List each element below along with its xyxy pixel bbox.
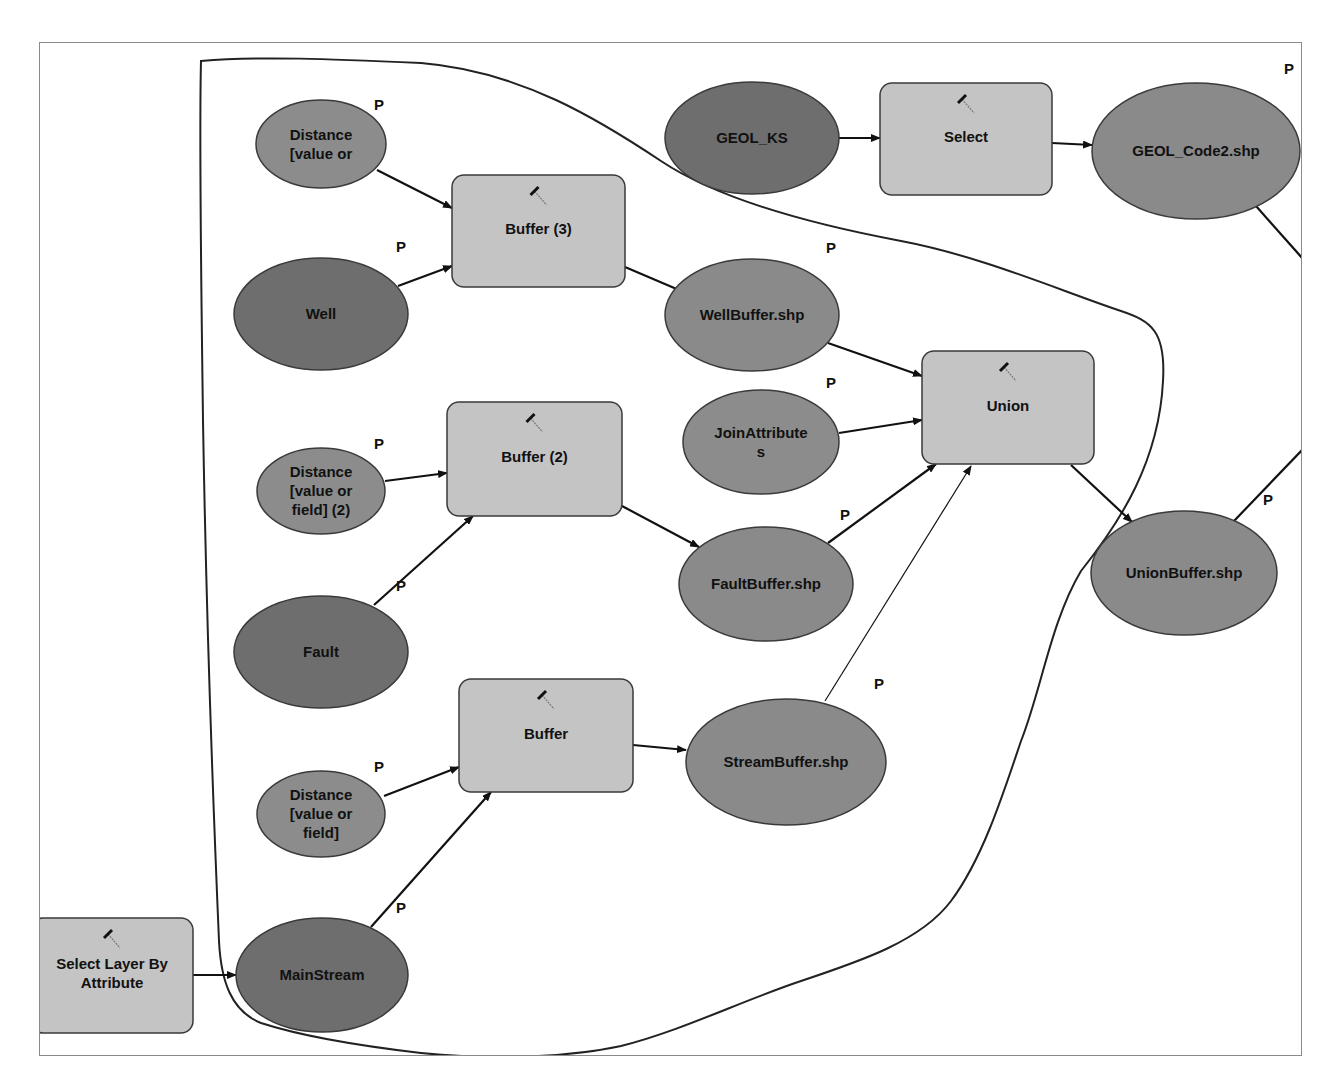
- node-distance2[interactable]: Distance[value orfield] (2)P: [257, 435, 385, 534]
- node-label: StreamBuffer.shp: [723, 753, 848, 770]
- connector-select-to-geol_code2[interactable]: [1052, 143, 1092, 145]
- model-parameter-marker: P: [396, 899, 406, 916]
- node-geol_ks[interactable]: GEOL_KS: [665, 82, 839, 194]
- node-label: s: [757, 443, 765, 460]
- node-joinattributes[interactable]: JoinAttributesP: [683, 374, 839, 494]
- model-parameter-marker: P: [826, 239, 836, 256]
- model-parameter-marker: P: [1284, 60, 1294, 77]
- node-buffer1[interactable]: Buffer: [459, 679, 633, 792]
- node-label: WellBuffer.shp: [700, 306, 805, 323]
- node-well[interactable]: WellP: [234, 238, 408, 370]
- node-mainstream[interactable]: MainStreamP: [236, 899, 408, 1032]
- node-layer: Distance[value orPWellPBuffer (3)Distanc…: [40, 60, 1300, 1033]
- node-label: GEOL_Code2.shp: [1132, 142, 1260, 159]
- model-parameter-marker: P: [826, 374, 836, 391]
- node-label: Buffer (3): [505, 220, 572, 237]
- node-unionbuffer[interactable]: UnionBuffer.shpP: [1091, 491, 1277, 635]
- connector-wellbuffer-to-union[interactable]: [828, 343, 922, 376]
- node-distance1[interactable]: Distance[value orfield]P: [257, 758, 385, 857]
- node-label: Distance: [290, 786, 353, 803]
- node-label: Select: [944, 128, 988, 145]
- node-label: Attribute: [81, 974, 144, 991]
- node-label: [value or: [290, 482, 353, 499]
- node-label: [value or: [290, 805, 353, 822]
- model-parameter-marker: P: [1263, 491, 1273, 508]
- node-label: Union: [987, 397, 1030, 414]
- connector-distance2-to-buffer2[interactable]: [385, 473, 447, 481]
- connector-joinattributes-to-union[interactable]: [839, 420, 922, 433]
- node-distance3[interactable]: Distance[value orP: [256, 96, 386, 188]
- annotation-outline: [200, 58, 1163, 1056]
- node-union[interactable]: Union: [922, 351, 1094, 464]
- model-canvas[interactable]: Distance[value orPWellPBuffer (3)Distanc…: [39, 42, 1302, 1056]
- node-buffer3[interactable]: Buffer (3): [452, 175, 625, 287]
- connector-mainstream-to-buffer1[interactable]: [371, 792, 491, 927]
- node-label: Buffer: [524, 725, 568, 742]
- model-parameter-marker: P: [396, 577, 406, 594]
- node-label: Distance: [290, 463, 353, 480]
- node-label: Fault: [303, 643, 339, 660]
- connector-buffer1-to-streambuffer[interactable]: [633, 745, 686, 750]
- model-parameter-marker: P: [374, 96, 384, 113]
- node-label: Buffer (2): [501, 448, 568, 465]
- connector-well-to-buffer3[interactable]: [398, 266, 452, 286]
- node-label: GEOL_KS: [716, 129, 788, 146]
- connector-fault-to-buffer2[interactable]: [374, 516, 473, 605]
- node-buffer2[interactable]: Buffer (2): [447, 402, 622, 516]
- annotation-outline-layer: [200, 58, 1163, 1056]
- node-label: FaultBuffer.shp: [711, 575, 821, 592]
- connector-unionbuffer-to-offscreen[interactable]: [1234, 449, 1302, 521]
- model-parameter-marker: P: [374, 758, 384, 775]
- node-label: field]: [303, 824, 339, 841]
- node-label: Distance: [290, 126, 353, 143]
- node-faultbuffer[interactable]: FaultBuffer.shpP: [679, 506, 853, 641]
- model-parameter-marker: P: [396, 238, 406, 255]
- node-label: UnionBuffer.shp: [1126, 564, 1243, 581]
- node-label: Select Layer By: [56, 955, 168, 972]
- connector-buffer2-to-faultbuffer[interactable]: [622, 506, 699, 547]
- connector-distance1-to-buffer1[interactable]: [384, 767, 459, 796]
- connector-distance3-to-buffer3[interactable]: [377, 170, 452, 208]
- node-wellbuffer[interactable]: WellBuffer.shpP: [665, 239, 839, 371]
- model-diagram: Distance[value orPWellPBuffer (3)Distanc…: [40, 43, 1302, 1056]
- connector-faultbuffer-to-union[interactable]: [828, 464, 936, 543]
- node-label: JoinAttribute: [714, 424, 807, 441]
- node-streambuffer[interactable]: StreamBuffer.shpP: [686, 675, 886, 825]
- node-geol_code2[interactable]: GEOL_Code2.shpP: [1092, 60, 1300, 219]
- connector-union-to-unionbuffer[interactable]: [1071, 465, 1132, 522]
- model-parameter-marker: P: [840, 506, 850, 523]
- model-parameter-marker: P: [374, 435, 384, 452]
- model-parameter-marker: P: [874, 675, 884, 692]
- node-select_layer[interactable]: Select Layer ByAttribute: [40, 918, 193, 1033]
- node-label: Well: [306, 305, 337, 322]
- connector-geol_code2-to-offscreen[interactable]: [1256, 206, 1302, 259]
- node-label: field] (2): [292, 501, 350, 518]
- node-label: [value or: [290, 145, 353, 162]
- node-select[interactable]: Select: [880, 83, 1052, 195]
- node-label: MainStream: [279, 966, 364, 983]
